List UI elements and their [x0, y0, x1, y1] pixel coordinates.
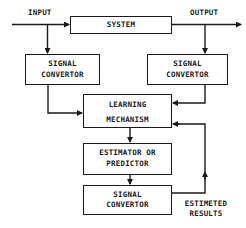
left-sc-to-lm-arrow — [48, 85, 82, 113]
signal-convertor-left-line1: SIGNAL — [26, 59, 99, 69]
signal-convertor-right-line1: SIGNAL — [148, 59, 227, 69]
signal-convertor-right-line2: CONVERTOR — [148, 70, 227, 80]
output-label: OUTPUT — [190, 8, 218, 18]
signal-convertor-right-box: SIGNAL CONVERTOR — [147, 54, 228, 85]
feedback-line — [171, 124, 205, 193]
signal-convertor-bottom-line1: SIGNAL — [84, 190, 171, 200]
learning-mechanism-line2: MECHANISM — [84, 115, 171, 125]
signal-convertor-bottom-box: SIGNAL CONVERTOR — [83, 185, 172, 215]
system-box-label: SYSTEM — [71, 20, 171, 30]
input-label: INPUT — [28, 8, 52, 18]
estimator-box: ESTIMATOR OR PREDICTOR — [83, 143, 172, 175]
learning-mechanism-line1: LEARNING — [84, 100, 171, 110]
system-box: SYSTEM — [70, 16, 172, 34]
right-sc-to-lm-arrow — [173, 85, 205, 103]
estimator-line2: PREDICTOR — [84, 159, 171, 169]
estimated-results-label-line1: ESTIMETED — [179, 199, 233, 209]
signal-convertor-left-box: SIGNAL CONVERTOR — [25, 54, 100, 85]
estimated-results-label-line2: RESULTS — [179, 209, 233, 219]
signal-convertor-bottom-line2: CONVERTOR — [84, 200, 171, 210]
learning-mechanism-box: LEARNING MECHANISM — [83, 94, 172, 128]
signal-convertor-left-line2: CONVERTOR — [26, 70, 99, 80]
estimator-line1: ESTIMATOR OR — [84, 148, 171, 158]
